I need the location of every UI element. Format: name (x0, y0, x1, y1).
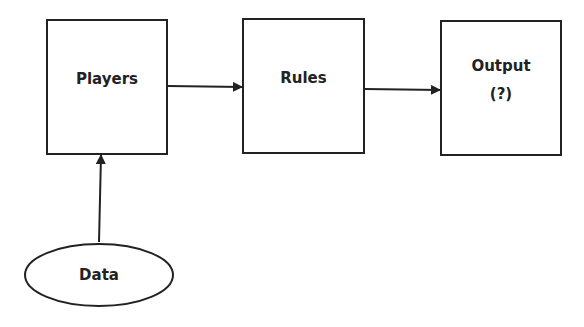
arrow-players-to-rules (168, 86, 242, 87)
rules-label: Rules (243, 67, 364, 89)
arrow-rules-to-output (365, 89, 440, 90)
data-label: Data (25, 264, 173, 286)
arrow-data-to-players (99, 155, 101, 242)
output-label: Output (441, 55, 561, 77)
players-label: Players (47, 68, 167, 90)
output-sublabel: (?) (441, 83, 561, 105)
